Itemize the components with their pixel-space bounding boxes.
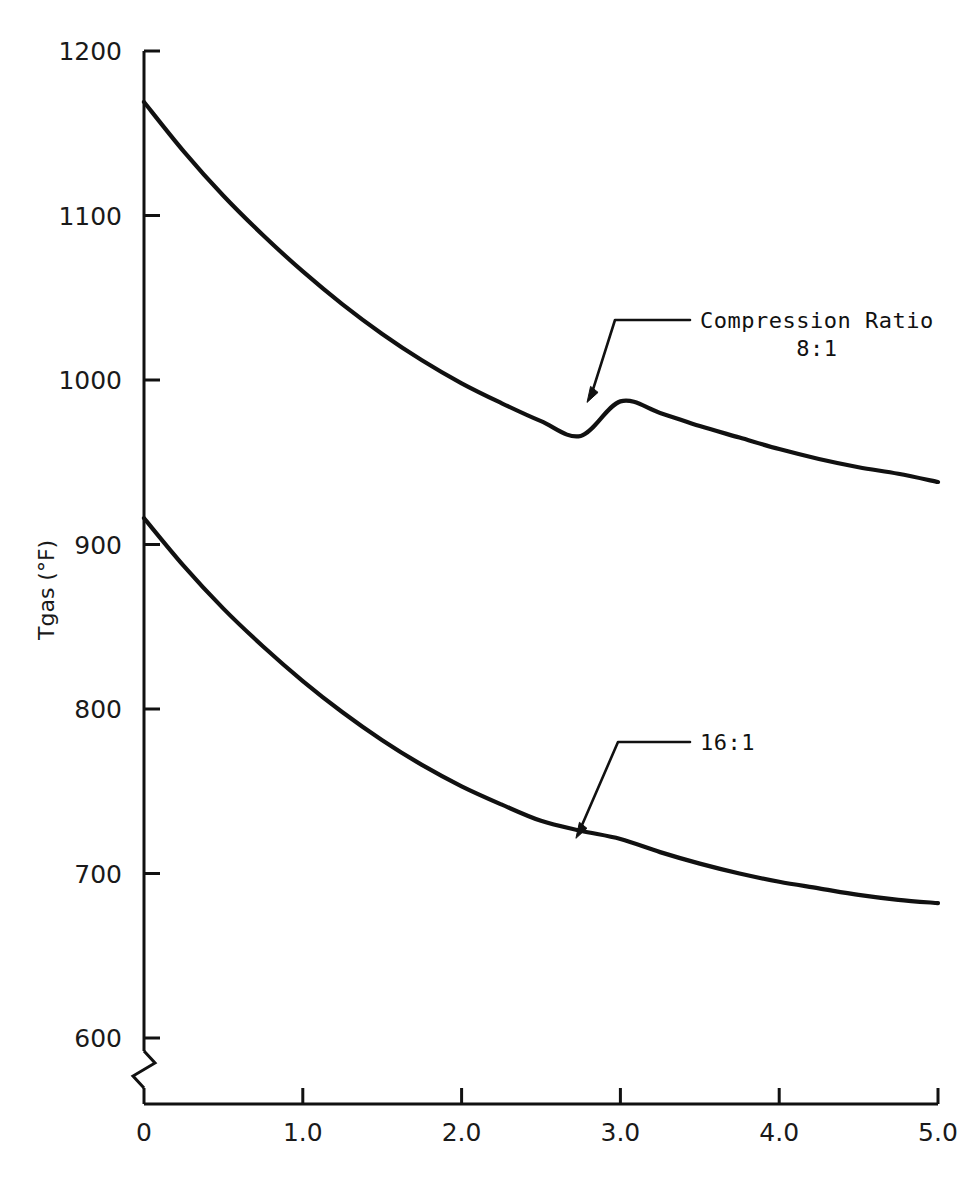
y-axis-tick-label: 600 xyxy=(74,1024,122,1053)
y-axis-tick-label: 800 xyxy=(74,695,122,724)
y-axis-break-symbol xyxy=(133,1051,155,1088)
x-axis-tick-label: 3.0 xyxy=(601,1118,641,1147)
annotation-compression-ratio-8-1: Compression Ratio 8:1 xyxy=(700,307,934,363)
y-axis-tick-label: 900 xyxy=(74,530,122,559)
y-axis-tick-label: 700 xyxy=(74,859,122,888)
annotation-compression-ratio-16-1: 16:1 xyxy=(700,729,755,757)
x-axis-tick-label: 5.0 xyxy=(918,1118,958,1147)
x-axis-tick-label: 1.0 xyxy=(283,1118,323,1147)
annotation-leaders-group xyxy=(576,320,690,838)
data-series-line-1 xyxy=(144,518,938,903)
annotation-leader xyxy=(587,320,690,402)
y-axis-tick-label: 1100 xyxy=(58,201,122,230)
y-axis-title: Tgas (°F) xyxy=(34,540,59,640)
y-axis-tick-label: 1000 xyxy=(58,366,122,395)
data-series-line-0 xyxy=(144,102,938,482)
annotation-leader xyxy=(576,742,690,838)
x-axis-tick-label: 4.0 xyxy=(759,1118,799,1147)
x-axis-tick-label: 0 xyxy=(136,1118,152,1147)
chart-figure: Tgas (°F) 600700800900100011001200 01.02… xyxy=(0,0,972,1186)
data-series-group xyxy=(144,102,938,903)
chart-canvas xyxy=(0,0,972,1186)
x-axis-tick-label: 2.0 xyxy=(442,1118,482,1147)
y-axis-tick-label: 1200 xyxy=(58,37,122,66)
axes-group xyxy=(133,51,938,1104)
